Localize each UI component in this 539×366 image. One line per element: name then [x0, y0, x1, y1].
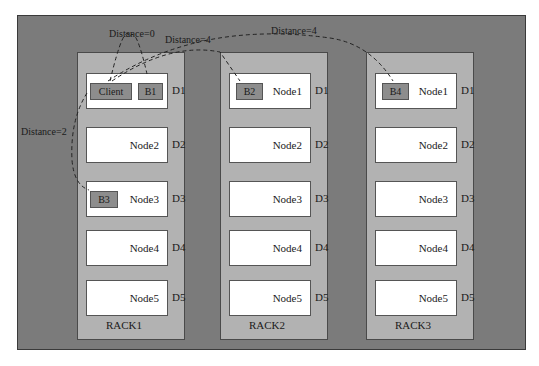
link-client-b4 [108, 34, 393, 81]
link-client-b1 [110, 33, 147, 81]
distance-links [0, 0, 539, 366]
link-client-b2 [112, 50, 240, 81]
distance-label-client-b3: Distance=2 [21, 126, 67, 137]
distance-label-client-b4: Distance=4 [271, 25, 317, 36]
distance-label-client-b2: Distance=4 [165, 34, 211, 45]
distance-label-client-b1: Distance=0 [109, 28, 155, 39]
link-client-b3 [72, 93, 89, 190]
